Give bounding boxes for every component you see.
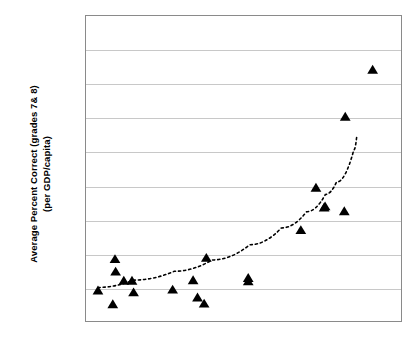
data-point-marker <box>339 206 350 215</box>
data-point-marker <box>311 183 322 192</box>
data-point-marker <box>295 225 306 234</box>
data-point-marker <box>93 286 104 295</box>
y-axis-label: Average Percent Correct (grades 7& 8) (p… <box>0 0 80 347</box>
chart-container: Average Percent Correct (grades 7& 8) (p… <box>0 0 417 347</box>
plot-svg <box>86 16 401 321</box>
data-point-marker <box>110 254 121 263</box>
data-point-marker <box>367 65 378 74</box>
data-point-marker <box>243 273 254 282</box>
data-point-marker <box>107 299 118 308</box>
y-axis-label-line-1: Average Percent Correct (grades 7& 8) <box>27 85 40 263</box>
data-point-marker <box>340 112 351 121</box>
data-point-marker <box>188 275 199 284</box>
data-point-marker <box>167 285 178 294</box>
data-point-marker <box>192 293 203 302</box>
y-axis-label-line-2: (per GDP/capita) <box>40 85 53 263</box>
trendline <box>98 135 357 288</box>
data-point-marker <box>128 287 139 296</box>
data-point-marker <box>320 201 331 210</box>
data-point-marker <box>201 253 212 262</box>
data-markers <box>93 65 378 308</box>
plot-area <box>85 15 402 322</box>
data-point-marker <box>110 267 121 276</box>
